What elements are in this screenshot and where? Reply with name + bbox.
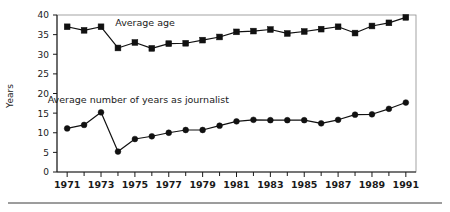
data-point	[149, 45, 155, 51]
data-point	[318, 26, 324, 32]
data-point	[217, 34, 223, 40]
data-point	[64, 24, 70, 30]
data-point	[149, 133, 155, 139]
data-point	[386, 106, 392, 112]
data-point	[352, 30, 358, 36]
data-point	[369, 23, 375, 29]
data-point	[166, 41, 172, 47]
data-point	[200, 37, 206, 43]
data-point	[64, 126, 70, 132]
data-point	[217, 123, 223, 129]
y-tick-label: 0	[43, 167, 49, 177]
x-tick-label: 1985	[291, 179, 317, 190]
y-tick-label: 35	[38, 30, 49, 40]
x-tick-label: 1973	[88, 179, 114, 190]
data-point	[284, 117, 290, 123]
x-tick-label: 1971	[54, 179, 80, 190]
x-tick-label: 1989	[359, 179, 385, 190]
data-point	[318, 120, 324, 126]
data-point	[132, 136, 138, 142]
data-point	[386, 20, 392, 26]
x-tick-label: 1977	[156, 179, 182, 190]
y-tick-label: 40	[38, 10, 50, 20]
data-point	[369, 111, 375, 117]
y-axis-title: Years	[5, 84, 15, 109]
data-point	[98, 109, 104, 115]
y-tick-label: 5	[43, 148, 49, 158]
chart-series	[64, 14, 408, 154]
data-point	[81, 122, 87, 128]
x-tick-label: 1987	[325, 179, 351, 190]
x-tick-label: 1981	[223, 179, 249, 190]
data-point	[115, 149, 121, 155]
data-point	[132, 40, 138, 46]
data-point	[183, 127, 189, 133]
data-point	[200, 127, 206, 133]
data-point	[403, 100, 409, 106]
y-tick-label: 30	[38, 50, 50, 60]
data-point	[98, 24, 104, 30]
y-tick-label: 15	[38, 109, 49, 119]
data-point	[234, 29, 240, 35]
data-point	[251, 28, 257, 34]
data-point	[81, 27, 87, 33]
data-point	[403, 14, 409, 20]
data-point	[301, 29, 307, 35]
series-annotations: Average ageAverage number of years as jo…	[48, 17, 230, 105]
chart-figure: 0510152025303540 19711973197519771979198…	[0, 0, 450, 212]
series-label-2: Average number of years as journalist	[48, 94, 230, 105]
data-point	[183, 40, 189, 46]
data-point	[335, 117, 341, 123]
data-point	[251, 117, 257, 123]
data-point	[267, 117, 273, 123]
data-point	[234, 118, 240, 124]
data-point	[284, 31, 290, 37]
x-tick-label: 1975	[122, 179, 148, 190]
x-tick-label: 1983	[257, 179, 283, 190]
y-tick-label: 25	[38, 69, 49, 79]
data-point	[352, 112, 358, 118]
x-axis-ticks: 1971197319751977197919811983198519871989…	[54, 172, 419, 190]
series-2	[64, 100, 408, 155]
line-chart: 0510152025303540 19711973197519771979198…	[0, 0, 450, 212]
x-tick-label: 1979	[189, 179, 215, 190]
data-point	[267, 27, 273, 33]
data-point	[115, 45, 121, 51]
x-tick-label: 1991	[393, 179, 419, 190]
series-line	[67, 103, 406, 152]
data-point	[335, 24, 341, 30]
data-point	[166, 130, 172, 136]
y-tick-label: 10	[38, 128, 50, 138]
series-label-1: Average age	[115, 17, 175, 28]
data-point	[301, 117, 307, 123]
